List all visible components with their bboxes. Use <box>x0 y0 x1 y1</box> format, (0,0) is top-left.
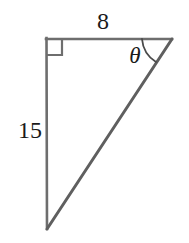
triangle-side-hypotenuse <box>47 39 172 229</box>
geometry-figure: 8 15 θ <box>0 0 189 243</box>
side-length-label-left: 15 <box>10 118 50 142</box>
side-length-label-top: 8 <box>0 9 189 33</box>
right-angle-marker-icon <box>46 39 62 55</box>
angle-label-theta: θ <box>124 44 146 67</box>
